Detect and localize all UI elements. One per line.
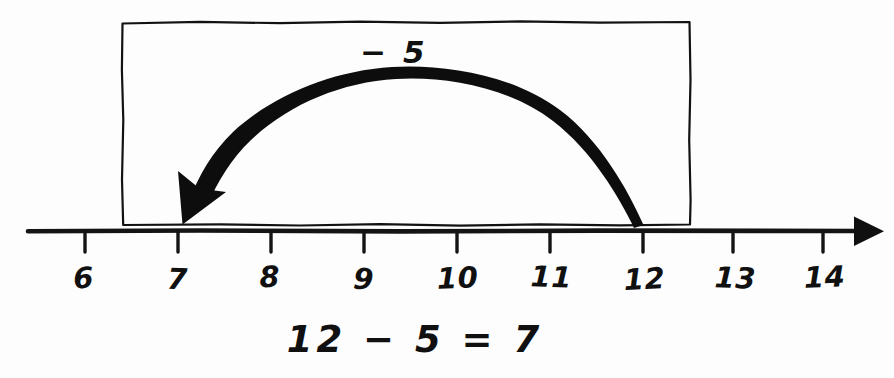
tick-label-10: 10 [436,260,479,295]
tick-label-12: 12 [623,261,666,297]
tick-label-13: 13 [714,260,757,295]
number-line-ticks [85,231,823,252]
tick-label-9: 9 [352,261,374,296]
tick-label-14: 14 [803,259,846,294]
axis-arrowhead-icon [854,217,884,247]
tick-label-11: 11 [530,259,573,294]
tick-label-7: 7 [166,262,188,297]
number-line-figure: 6 7 8 9 10 11 12 13 14 − 5 12 − 5 = 7 [0,0,894,378]
subtraction-jump-arc [191,66,644,228]
number-line-worksheet: 6 7 8 9 10 11 12 13 14 − 5 12 − 5 = 7 [0,0,894,378]
number-line-tick-labels: 6 7 8 9 10 11 12 13 14 [72,259,846,297]
tick-label-8: 8 [259,260,281,295]
tick-label-6: 6 [72,260,94,295]
jump-label: − 5 [360,34,427,70]
equation-label: 12 − 5 = 7 [287,318,544,361]
